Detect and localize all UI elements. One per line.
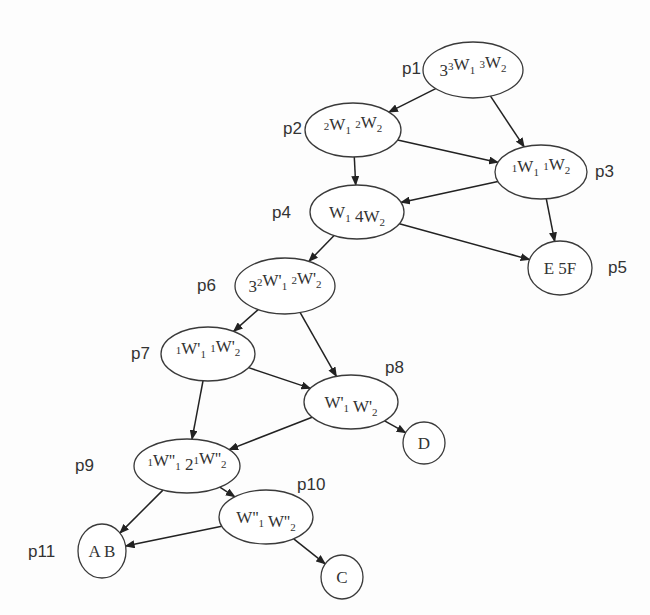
- node-C: C: [321, 555, 363, 599]
- node-content: D: [418, 434, 430, 453]
- process-tree-diagram: 33W1 3W22W1 2W21W1 1W2W1 4W2E 5F32W'1 2W…: [0, 0, 650, 615]
- node-p2: 2W1 2W2: [305, 103, 401, 157]
- edge-p8-to-p9: [229, 417, 312, 449]
- node-p5: E 5F: [528, 241, 592, 295]
- edge-p7-to-p9: [192, 381, 203, 439]
- node-label-p2: p2: [283, 119, 302, 138]
- edge-p9-to-p11: [120, 490, 163, 533]
- nodes-layer: 33W1 3W22W1 2W21W1 1W2W1 4W2E 5F32W'1 2W…: [78, 42, 592, 599]
- node-p4: W1 4W2: [310, 185, 404, 239]
- node-label-p5: p5: [608, 258, 627, 277]
- node-label-p7: p7: [131, 344, 150, 363]
- edge-p4-to-p6: [309, 236, 334, 262]
- edge-p1-to-p2: [389, 89, 436, 113]
- node-label-p10: p10: [297, 475, 325, 494]
- edge-p7-to-p8: [249, 368, 311, 389]
- node-p11: A B: [78, 524, 126, 578]
- node-label-p9: p9: [75, 456, 94, 475]
- node-p6: 32W'1 2W'2: [235, 258, 335, 314]
- node-label-p4: p4: [272, 203, 291, 222]
- node-label-p6: p6: [197, 276, 216, 295]
- edge-p10-to-C: [294, 539, 326, 564]
- node-p1: 33W1 3W2: [423, 42, 523, 98]
- diagram-canvas: 33W1 3W22W1 2W21W1 1W2W1 4W2E 5F32W'1 2W…: [0, 0, 650, 615]
- edge-p6-to-p8: [300, 313, 336, 377]
- edge-p2-to-p4: [354, 157, 355, 185]
- node-D: D: [403, 422, 445, 464]
- node-label-p11: p11: [28, 542, 55, 561]
- edge-p6-to-p7: [234, 310, 259, 332]
- edge-p3-to-p4: [401, 181, 498, 202]
- node-content: E 5F: [544, 259, 577, 278]
- edge-p4-to-p5: [399, 224, 529, 260]
- edge-p8-to-D: [385, 421, 406, 433]
- node-p3: 1W1 1W2: [495, 145, 587, 199]
- node-label-p1: p1: [402, 59, 421, 78]
- node-label-p8: p8: [385, 358, 404, 377]
- node-p7: 1W'1 1W'2: [161, 327, 255, 381]
- edge-p9-to-p10: [220, 487, 235, 497]
- edge-p1-to-p3: [491, 96, 525, 147]
- node-p10: W''1 W''2: [219, 490, 313, 544]
- node-p8: W'1 W'2: [304, 375, 398, 429]
- edge-p10-to-p11: [126, 526, 222, 546]
- node-content: C: [336, 568, 347, 587]
- node-label-p3: p3: [595, 162, 614, 181]
- node-content: A B: [89, 542, 116, 561]
- edge-p3-to-p5: [546, 199, 554, 242]
- node-p9: 1W''1 21W''2: [134, 439, 240, 493]
- edge-p2-to-p3: [398, 140, 498, 162]
